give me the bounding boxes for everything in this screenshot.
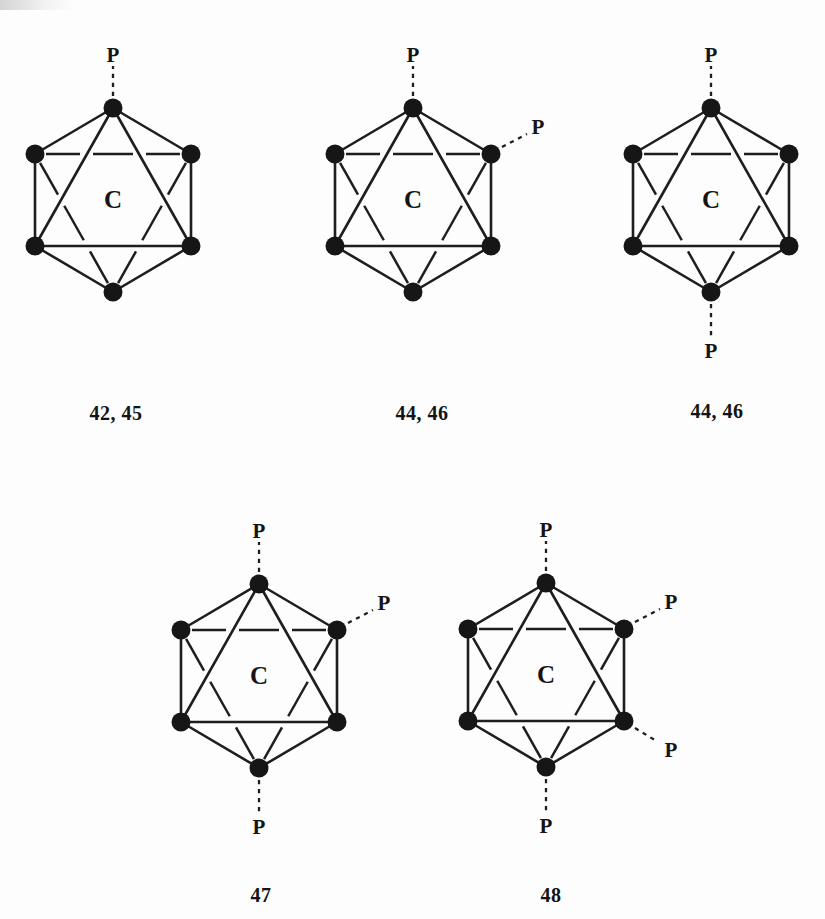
carbide-label: C xyxy=(250,662,268,689)
metal-vertex xyxy=(459,712,478,731)
cluster-47: PPPC47 xyxy=(172,519,391,906)
metal-vertex xyxy=(702,283,721,302)
cluster-caption: 44, 46 xyxy=(396,402,449,424)
cluster-back-edge xyxy=(64,206,84,241)
cluster-42-45: PC42, 45 xyxy=(26,43,201,424)
carbide-label: C xyxy=(104,186,122,213)
metal-vertex xyxy=(537,758,556,777)
ligand-label-bottom: P xyxy=(540,814,553,838)
metal-vertex xyxy=(104,283,123,302)
metal-vertex xyxy=(537,574,556,593)
metal-vertex xyxy=(328,713,347,732)
figure-page: PC42, 45PPC44, 46PPC44, 46PPPC47PPPPC48 xyxy=(0,0,825,919)
cluster-44-46-trans: PPC44, 46 xyxy=(624,43,799,422)
ligand-label-bottom: P xyxy=(253,815,266,839)
metal-vertex xyxy=(172,713,191,732)
metal-vertex xyxy=(459,620,478,639)
carbide-label: C xyxy=(537,661,555,688)
metal-vertex xyxy=(326,237,345,256)
metal-vertex xyxy=(615,712,634,731)
cluster-back-edge xyxy=(288,682,308,717)
metal-vertex xyxy=(182,237,201,256)
cluster-back-edge xyxy=(523,726,541,758)
cluster-back-edge xyxy=(40,163,58,195)
metal-vertex xyxy=(26,145,45,164)
cluster-back-edge xyxy=(314,639,332,671)
cluster-back-edge xyxy=(118,251,136,283)
cluster-back-edge xyxy=(264,727,282,759)
cluster-back-edge xyxy=(740,206,760,241)
metal-vertex xyxy=(250,575,269,594)
cluster-caption: 44, 46 xyxy=(691,400,744,422)
cluster-back-edge xyxy=(716,251,734,283)
ligand-label-top: P xyxy=(407,43,420,67)
ligand-label-bottom: P xyxy=(705,339,718,363)
metal-vertex xyxy=(326,145,345,164)
cluster-back-edge xyxy=(442,206,462,241)
cluster-back-edge xyxy=(468,163,486,195)
metal-vertex xyxy=(702,99,721,118)
metal-vertex xyxy=(780,237,799,256)
metal-vertex xyxy=(404,283,423,302)
ligand-label-upper-right: P xyxy=(665,590,678,614)
metal-vertex xyxy=(182,145,201,164)
cluster-back-edge xyxy=(418,251,436,283)
cluster-44-46-cis: PPC44, 46 xyxy=(326,43,545,424)
ligand-label-upper-right: P xyxy=(532,115,545,139)
cluster-back-edge xyxy=(364,206,384,241)
cluster-back-edge xyxy=(236,727,254,759)
ligand-bond-lower-right xyxy=(635,728,658,742)
cluster-back-edge xyxy=(662,206,682,241)
metal-vertex xyxy=(250,759,269,778)
cluster-back-edge xyxy=(638,163,656,195)
cluster-48: PPPPC48 xyxy=(459,518,678,906)
metal-vertex xyxy=(172,621,191,640)
metal-vertex xyxy=(482,237,501,256)
cluster-back-edge xyxy=(497,681,517,716)
ligand-label-top: P xyxy=(540,518,553,542)
metal-vertex xyxy=(780,145,799,164)
ligand-label-lower-right: P xyxy=(665,738,678,762)
cluster-back-edge xyxy=(142,206,162,241)
carbide-label: C xyxy=(404,186,422,213)
metal-vertex xyxy=(624,145,643,164)
ligand-label-top: P xyxy=(107,43,120,67)
ligand-label-top: P xyxy=(705,43,718,67)
ligand-label-top: P xyxy=(253,519,266,543)
cluster-back-edge xyxy=(390,251,408,283)
cluster-back-edge xyxy=(340,163,358,195)
cluster-back-edge xyxy=(210,682,230,717)
cluster-back-edge xyxy=(601,638,619,670)
metal-vertex xyxy=(615,620,634,639)
cluster-back-edge xyxy=(551,726,569,758)
carbide-label: C xyxy=(702,186,720,213)
cluster-caption: 47 xyxy=(251,884,272,906)
metal-vertex xyxy=(482,145,501,164)
ligand-bond-upper-right xyxy=(502,134,527,147)
ligand-bond-upper-right xyxy=(348,610,373,623)
metal-vertex xyxy=(328,621,347,640)
metal-vertex xyxy=(624,237,643,256)
metal-vertex xyxy=(104,99,123,118)
cluster-figure-canvas: PC42, 45PPC44, 46PPC44, 46PPPC47PPPPC48 xyxy=(0,0,825,919)
cluster-back-edge xyxy=(575,681,595,716)
cluster-back-edge xyxy=(473,638,491,670)
cluster-back-edge xyxy=(688,251,706,283)
ligand-bond-upper-right xyxy=(635,609,660,622)
ligand-label-upper-right: P xyxy=(378,591,391,615)
cluster-back-edge xyxy=(90,251,108,283)
cluster-caption: 42, 45 xyxy=(90,402,143,424)
cluster-back-edge xyxy=(766,163,784,195)
metal-vertex xyxy=(26,237,45,256)
cluster-back-edge xyxy=(168,163,186,195)
cluster-back-edge xyxy=(186,639,204,671)
cluster-caption: 48 xyxy=(541,884,562,906)
metal-vertex xyxy=(404,99,423,118)
